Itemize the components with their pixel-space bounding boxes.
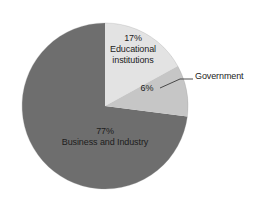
pie-label-educational-institutions: 17% Educational institutions bbox=[90, 33, 176, 66]
pie-label-business-percent: 77% bbox=[38, 126, 172, 137]
pie-label-business-name: Business and Industry bbox=[38, 137, 172, 148]
pie-label-educational-name-line1: Educational bbox=[90, 44, 176, 55]
pie-chart-svg bbox=[0, 0, 262, 209]
pie-label-educational-percent: 17% bbox=[90, 33, 176, 44]
pie-label-business-and-industry: 77% Business and Industry bbox=[38, 126, 172, 148]
pie-label-educational-name-line2: institutions bbox=[90, 55, 176, 66]
pie-chart-figure: 17% Educational institutions 77% Busines… bbox=[0, 0, 262, 209]
pie-label-government-percent: 6% bbox=[134, 83, 160, 94]
pie-label-government-name: Government bbox=[195, 71, 261, 82]
